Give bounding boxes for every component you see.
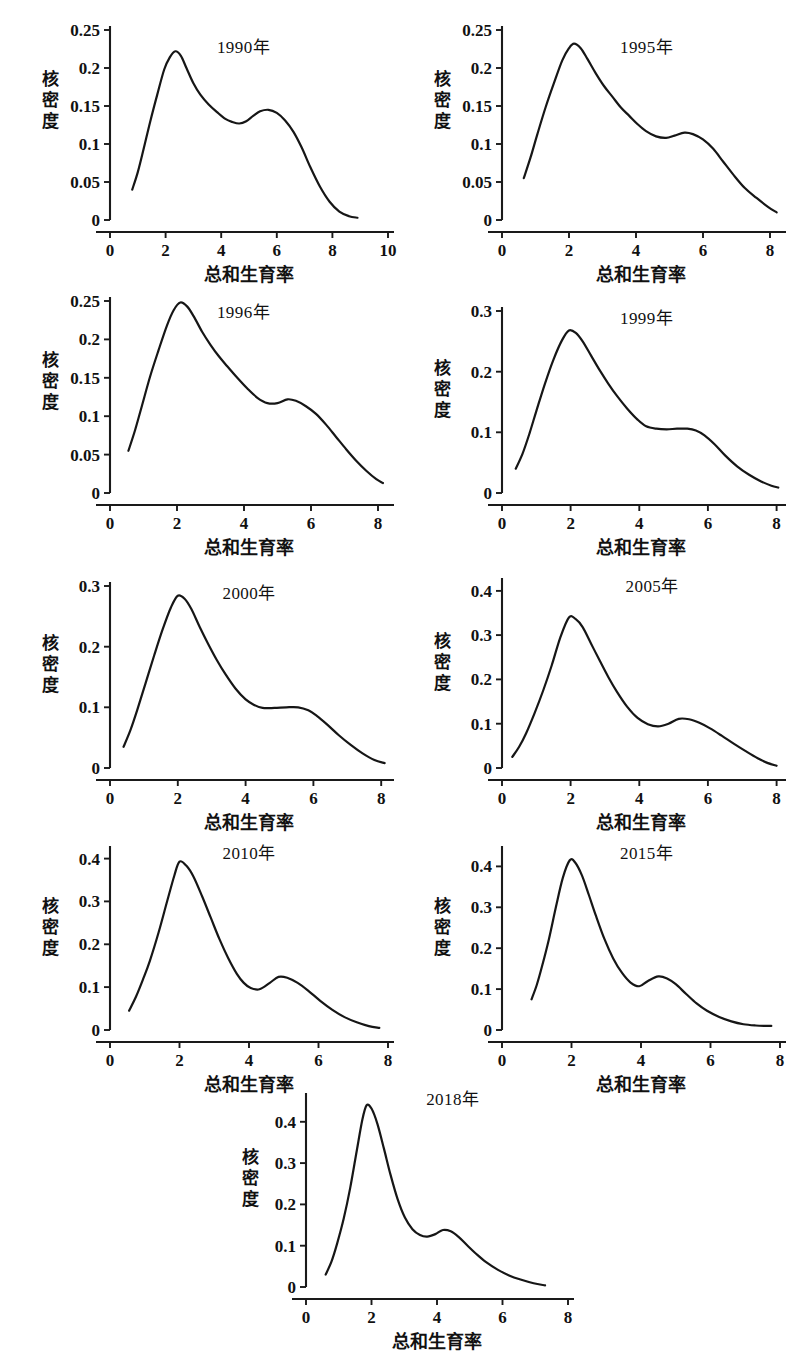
panel-title-year: 2018年: [426, 1090, 479, 1109]
density-curve: [516, 330, 779, 488]
y-tick-label: 0.3: [471, 626, 492, 645]
y-axis-label-char: 密: [434, 917, 451, 937]
density-panel-2018: 00.10.20.30.4024682018年核密度总和生育率: [216, 1075, 606, 1355]
y-axis-label-char: 核: [42, 633, 59, 653]
y-tick-label: 0.25: [70, 21, 100, 40]
x-tick-label: 6: [273, 241, 282, 260]
panel-title-year: 2010年: [223, 844, 276, 863]
y-tick-label: 0: [92, 211, 101, 230]
x-tick-label: 0: [498, 1051, 507, 1070]
y-tick-label: 0.15: [70, 97, 100, 116]
x-tick-label: 2: [367, 1308, 376, 1327]
x-tick-label: 2: [175, 1051, 184, 1070]
y-tick-label: 0.2: [79, 935, 100, 954]
y-axis-label-char: 密: [434, 652, 451, 672]
x-tick-label: 4: [241, 789, 250, 808]
x-tick-label: 6: [699, 241, 708, 260]
y-tick-label: 0.1: [471, 980, 492, 999]
x-tick-label: 0: [498, 789, 507, 808]
y-tick-label: 0: [484, 759, 493, 778]
y-axis-label-char: 密: [242, 1168, 259, 1188]
x-tick-label: 6: [706, 1051, 715, 1070]
y-tick-label: 0: [484, 211, 493, 230]
y-tick-label: 0: [92, 759, 101, 778]
y-axis-label-char: 核: [434, 358, 451, 378]
density-panel-1990: 00.050.10.150.20.2502468101990年核密度总和生育率: [20, 8, 410, 276]
x-tick-label: 6: [309, 789, 318, 808]
x-tick-label: 4: [637, 1051, 646, 1070]
x-tick-label: 2: [567, 1051, 576, 1070]
y-tick-label: 0.1: [79, 978, 100, 997]
y-tick-label: 0: [92, 1021, 101, 1040]
y-axis-label-char: 度: [42, 675, 60, 695]
y-axis-label-char: 度: [242, 1189, 260, 1209]
x-tick-label: 6: [307, 514, 316, 533]
y-axis-label-char: 核: [42, 896, 59, 916]
density-curve: [129, 861, 379, 1028]
y-tick-label: 0.4: [471, 582, 493, 601]
x-tick-label: 2: [161, 241, 170, 260]
x-tick-label: 0: [302, 1308, 311, 1327]
y-tick-label: 0.3: [471, 898, 492, 917]
density-curve: [524, 44, 777, 213]
y-tick-label: 0.4: [79, 850, 101, 869]
y-tick-label: 0.25: [70, 292, 100, 311]
x-tick-label: 2: [566, 514, 575, 533]
y-tick-label: 0.2: [471, 363, 492, 382]
y-axis-label-char: 密: [42, 654, 59, 674]
x-tick-label: 6: [314, 1051, 323, 1070]
y-axis-label-char: 核: [434, 896, 451, 916]
y-tick-label: 0.3: [275, 1154, 296, 1173]
y-tick-label: 0.2: [471, 670, 492, 689]
density-panel-2005: 00.10.20.30.4024682005年核密度总和生育率: [412, 560, 802, 828]
density-panel-1995: 00.050.10.150.20.25024681995年核密度总和生育率: [412, 8, 802, 276]
y-tick-label: 0.2: [79, 59, 100, 78]
y-tick-label: 0.15: [70, 369, 100, 388]
x-tick-label: 0: [106, 1051, 115, 1070]
y-tick-label: 0: [484, 1021, 493, 1040]
y-axis-label-char: 核: [242, 1147, 259, 1167]
x-tick-label: 8: [377, 789, 386, 808]
y-axis-label-char: 度: [42, 392, 60, 412]
y-tick-label: 0.1: [471, 135, 492, 154]
x-tick-label: 8: [374, 514, 383, 533]
x-axis-title: 总和生育率: [204, 537, 294, 558]
y-tick-label: 0.2: [471, 939, 492, 958]
x-tick-label: 10: [380, 241, 397, 260]
density-curve: [532, 859, 772, 1026]
y-tick-label: 0: [288, 1278, 297, 1297]
y-tick-label: 0.05: [70, 173, 100, 192]
x-tick-label: 4: [433, 1308, 442, 1327]
x-axis-title: 总和生育率: [596, 264, 686, 285]
x-tick-label: 0: [106, 789, 115, 808]
x-tick-label: 4: [240, 514, 249, 533]
x-tick-label: 6: [498, 1308, 507, 1327]
x-tick-label: 8: [776, 1051, 785, 1070]
density-panel-1996: 00.050.10.150.20.25024681996年核密度总和生育率: [20, 285, 410, 553]
y-axis-label-char: 度: [434, 111, 452, 131]
y-tick-label: 0.2: [471, 59, 492, 78]
x-tick-label: 8: [328, 241, 337, 260]
density-panel-2000: 00.10.20.3024682000年核密度总和生育率: [20, 560, 410, 828]
x-tick-label: 2: [173, 514, 182, 533]
y-tick-label: 0.2: [275, 1195, 296, 1214]
x-tick-label: 8: [384, 1051, 393, 1070]
x-tick-label: 0: [498, 241, 507, 260]
y-axis-label-char: 密: [434, 379, 451, 399]
x-axis-title: 总和生育率: [596, 1074, 686, 1095]
x-tick-label: 4: [635, 789, 644, 808]
y-tick-label: 0.1: [79, 135, 100, 154]
x-tick-label: 0: [106, 514, 115, 533]
y-tick-label: 0.2: [79, 330, 100, 349]
y-tick-label: 0.15: [462, 97, 492, 116]
density-curve: [512, 616, 776, 766]
x-tick-label: 4: [217, 241, 226, 260]
x-tick-label: 2: [566, 789, 575, 808]
density-panel-1999: 00.10.20.3024681999年核密度总和生育率: [412, 285, 802, 553]
x-tick-label: 8: [564, 1308, 573, 1327]
y-tick-label: 0.05: [462, 173, 492, 192]
y-tick-label: 0: [484, 484, 493, 503]
y-tick-label: 0.1: [79, 407, 100, 426]
x-axis-title: 总和生育率: [596, 537, 686, 558]
panel-title-year: 2015年: [620, 844, 673, 863]
